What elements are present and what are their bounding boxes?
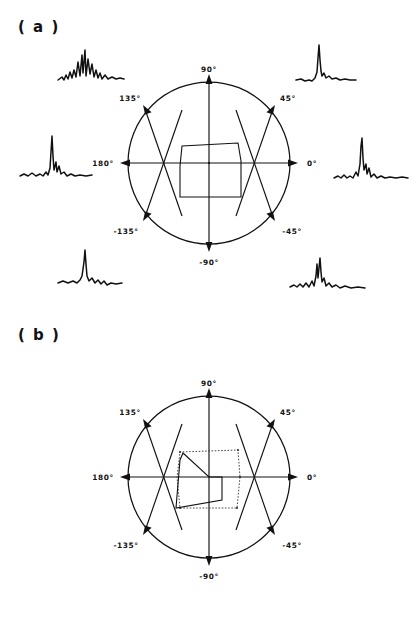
trace-45-panel-a — [296, 45, 356, 81]
tuning-polygon-solid — [180, 143, 241, 197]
axis-arrow-minus90-b — [206, 477, 213, 566]
tuning-polygon-solid-b — [176, 453, 222, 508]
axis-arrow-45-b — [236, 419, 275, 530]
trace-minus45-panel-a — [290, 258, 365, 288]
panel-a-plot: 90° 45° 0° -45° -90° -135° 180° 135° — [0, 0, 417, 311]
axis-arrow-90 — [206, 74, 213, 163]
angle-label-135: 135° — [119, 94, 141, 103]
angle-label-90: 90° — [201, 65, 217, 74]
axis-arrow-minus45 — [236, 110, 275, 221]
angle-label-minus45: -45° — [282, 227, 301, 236]
axis-arrow-minus45-b — [236, 424, 275, 535]
angle-label-45-b: 45° — [280, 408, 296, 417]
angle-label-180: 180° — [92, 159, 114, 168]
angle-label-minus135-b: -135° — [113, 541, 138, 550]
panel-b-plot: 90° 45° 0° -45° -90° -135° 180° 135° — [0, 300, 417, 623]
polar-center-dot — [208, 162, 210, 164]
axis-arrow-90-b — [206, 388, 213, 477]
axis-arrow-minus135-b — [143, 424, 182, 535]
axis-arrow-minus135 — [143, 110, 182, 221]
angle-label-minus90: -90° — [199, 258, 218, 267]
axis-arrow-135-b — [143, 419, 182, 530]
axis-arrow-minus90 — [206, 163, 213, 252]
axis-arrow-45 — [236, 105, 275, 216]
panel-b: ( b ) — [0, 300, 417, 623]
trace-minus135-panel-a — [58, 250, 122, 285]
angle-label-minus45-b: -45° — [282, 541, 301, 550]
panel-a: ( a ) — [0, 0, 417, 311]
angle-label-minus135: -135° — [113, 227, 138, 236]
trace-135-panel-a — [58, 50, 124, 80]
trace-0-panel-a — [334, 138, 408, 178]
trace-180-panel-a — [20, 136, 92, 176]
figure-root: ( a ) — [0, 0, 417, 623]
angle-label-180-b: 180° — [92, 473, 114, 482]
angle-label-90-b: 90° — [201, 379, 217, 388]
angle-label-135-b: 135° — [119, 408, 141, 417]
angle-label-0-b: 0° — [307, 473, 317, 482]
axis-arrow-135 — [143, 105, 182, 216]
angle-label-45: 45° — [280, 94, 296, 103]
angle-label-minus90-b: -90° — [199, 572, 218, 581]
angle-label-0: 0° — [307, 159, 317, 168]
